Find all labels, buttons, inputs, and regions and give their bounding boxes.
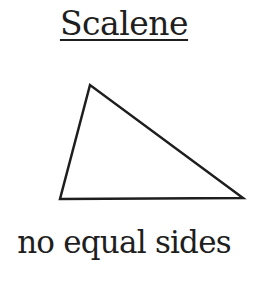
caption: no equal sides [0,222,248,262]
triangle-outline [60,85,243,199]
